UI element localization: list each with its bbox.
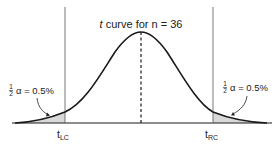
right-tail-shade [213, 112, 267, 123]
right-tail-annotation: 1 2 α = 0.5% [223, 80, 269, 94]
chart-title: t curve for n = 36 [100, 18, 183, 30]
left-tail-annotation: 1 2 α = 0.5% [9, 83, 55, 97]
right-critical-label: tRC [205, 128, 218, 141]
svg-text:2: 2 [9, 90, 13, 97]
left-critical-label: tLC [57, 128, 69, 141]
t-distribution-diagram: t curve for n = 36 1 2 α = 0.5% 1 2 α = … [0, 0, 278, 149]
right-arrowhead-icon [231, 112, 235, 116]
svg-text:1: 1 [223, 80, 227, 87]
svg-text:1: 1 [9, 83, 13, 90]
svg-text:α = 0.5%: α = 0.5% [16, 85, 55, 96]
svg-text:α = 0.5%: α = 0.5% [230, 82, 269, 93]
left-annotation-arrow [37, 98, 49, 115]
svg-text:2: 2 [223, 87, 227, 94]
left-arrowhead-icon [46, 113, 50, 117]
left-tail-shade [15, 112, 65, 123]
right-annotation-arrow [233, 96, 247, 114]
